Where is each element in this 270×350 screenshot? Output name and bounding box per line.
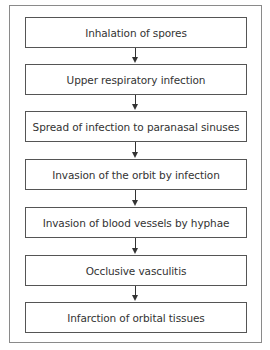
step-spread-to-sinuses: Spread of infection to paranasal sinuses bbox=[25, 111, 247, 142]
step-label: Invasion of blood vessels by hyphae bbox=[43, 217, 230, 229]
step-infarction-of-orbital-tissues: Infarction of orbital tissues bbox=[25, 302, 247, 333]
arrow-down-icon bbox=[135, 142, 137, 159]
step-label: Infarction of orbital tissues bbox=[67, 312, 204, 324]
step-label: Occlusive vasculitis bbox=[86, 265, 187, 277]
arrow-down-icon bbox=[135, 190, 137, 207]
step-label: Spread of infection to paranasal sinuses bbox=[33, 121, 240, 133]
step-invasion-of-orbit: Invasion of the orbit by infection bbox=[25, 159, 247, 190]
step-upper-respiratory-infection: Upper respiratory infection bbox=[25, 64, 247, 95]
arrow-down-icon bbox=[135, 48, 137, 64]
step-label: Invasion of the orbit by infection bbox=[52, 169, 219, 181]
step-label: Upper respiratory infection bbox=[67, 74, 206, 86]
arrow-down-icon bbox=[135, 95, 137, 111]
step-inhalation-of-spores: Inhalation of spores bbox=[25, 17, 247, 48]
arrow-down-icon bbox=[135, 286, 137, 302]
step-invasion-of-blood-vessels: Invasion of blood vessels by hyphae bbox=[25, 207, 247, 238]
step-label: Inhalation of spores bbox=[85, 27, 187, 39]
arrow-down-icon bbox=[135, 238, 137, 255]
step-occlusive-vasculitis: Occlusive vasculitis bbox=[25, 255, 247, 286]
